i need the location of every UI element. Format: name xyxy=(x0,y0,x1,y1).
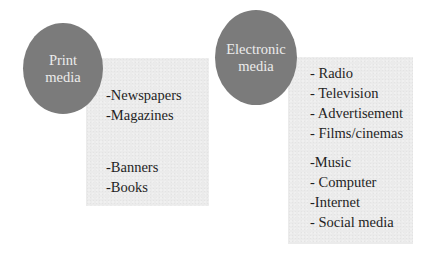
list-item-banners: -Banners xyxy=(106,157,182,177)
electronic-media-circle: Electronic media xyxy=(215,10,297,105)
list-item-magazines: -Magazines xyxy=(106,105,182,125)
list-item-music: -Music xyxy=(310,152,403,172)
list-item-newspapers: -Newspapers xyxy=(106,85,182,105)
list-item-radio: - Radio xyxy=(310,63,403,83)
list-item-internet: -Internet xyxy=(310,192,403,212)
print-media-list: -Newspapers -Magazines -Banners -Books xyxy=(106,85,182,197)
list-item-television: - Television xyxy=(310,83,403,103)
list-item-advertisement: - Advertisement xyxy=(310,103,403,123)
electronic-media-title-line1: Electronic xyxy=(226,41,286,58)
print-media-title-line2: media xyxy=(45,69,80,86)
electronic-media-title-line2: media xyxy=(238,58,273,75)
list-item-films-cinemas: - Films/cinemas xyxy=(310,123,403,143)
print-media-circle: Print media xyxy=(23,23,103,114)
electronic-media-list: - Radio - Television - Advertisement - F… xyxy=(310,63,403,232)
list-item-books: -Books xyxy=(106,177,182,197)
list-item-social-media: - Social media xyxy=(310,212,403,232)
print-media-title-line1: Print xyxy=(49,52,77,69)
list-item-computer: - Computer xyxy=(310,172,403,192)
